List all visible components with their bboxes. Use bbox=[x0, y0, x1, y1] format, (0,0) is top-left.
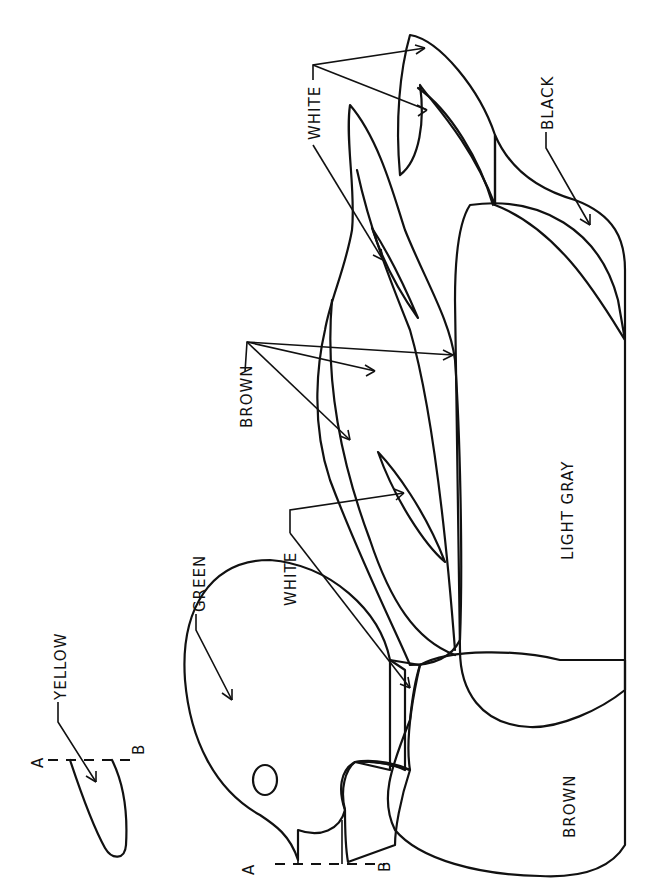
label-brown-wings: BROWN bbox=[238, 364, 256, 428]
head-section-a-label: A bbox=[240, 864, 258, 875]
neck-white-ring bbox=[355, 660, 420, 770]
leader-white-speculum-upper bbox=[313, 145, 383, 260]
breast-brown-region bbox=[388, 652, 625, 876]
bill-detail-a-label: A bbox=[29, 757, 47, 768]
label-yellow: YELLOW bbox=[52, 633, 70, 701]
leader-white-tail-2 bbox=[313, 65, 427, 110]
leader-yellow bbox=[58, 702, 96, 782]
label-black: BLACK bbox=[539, 76, 557, 130]
bill-detail-yellow bbox=[70, 760, 126, 857]
leader-brown-3 bbox=[247, 342, 350, 440]
bill-detail-b-label: B bbox=[130, 744, 148, 755]
wing-speculum-white-lower bbox=[378, 452, 445, 562]
leader-brown-1 bbox=[245, 342, 453, 372]
leader-white-speculum bbox=[290, 493, 404, 533]
label-white-tail: WHITE bbox=[306, 86, 324, 140]
leader-white-neck bbox=[290, 533, 410, 688]
label-light-gray: LIGHT GRAY bbox=[559, 461, 577, 560]
eye bbox=[253, 765, 277, 795]
leader-white-tail-1 bbox=[313, 48, 425, 80]
leader-black bbox=[546, 132, 590, 225]
label-brown-breast: BROWN bbox=[561, 774, 579, 838]
undertail-black-region bbox=[495, 135, 625, 340]
tail-white-region bbox=[398, 35, 495, 205]
label-green: GREEN bbox=[191, 555, 209, 612]
leader-green bbox=[196, 614, 232, 700]
label-white-neck: WHITE bbox=[282, 552, 300, 606]
decoy-painting-diagram: A B A B YELLOW GREEN WHITE BROWN WHITE B… bbox=[0, 0, 648, 896]
wing-speculum-white-upper bbox=[372, 228, 418, 318]
cheek-white-region bbox=[343, 761, 410, 862]
flank-light-gray-region bbox=[455, 203, 625, 727]
head-section-b-label: B bbox=[376, 861, 394, 872]
